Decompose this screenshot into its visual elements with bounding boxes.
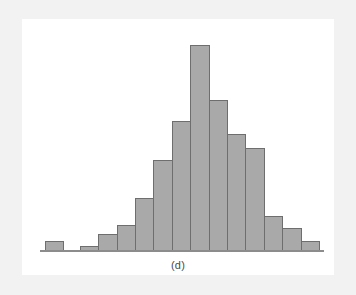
histogram-bar xyxy=(209,100,228,250)
histogram-bars xyxy=(45,40,320,250)
histogram-bar xyxy=(153,160,172,250)
figure-caption: (d) xyxy=(0,259,356,271)
histogram-figure: (d) xyxy=(0,0,356,295)
histogram-bar xyxy=(264,216,283,250)
histogram-bar xyxy=(227,134,246,250)
histogram-bar xyxy=(301,241,320,250)
histogram-bar xyxy=(98,234,117,250)
histogram-bar xyxy=(45,241,64,250)
histogram-bar xyxy=(172,121,191,250)
plot-area xyxy=(45,40,320,251)
histogram-bar xyxy=(135,198,154,250)
histogram-bar xyxy=(282,228,301,250)
figure-page: (d) xyxy=(0,0,356,295)
x-axis-baseline xyxy=(40,250,324,252)
histogram-bar xyxy=(117,225,136,250)
histogram-bar xyxy=(245,148,264,250)
histogram-bar xyxy=(190,45,209,250)
